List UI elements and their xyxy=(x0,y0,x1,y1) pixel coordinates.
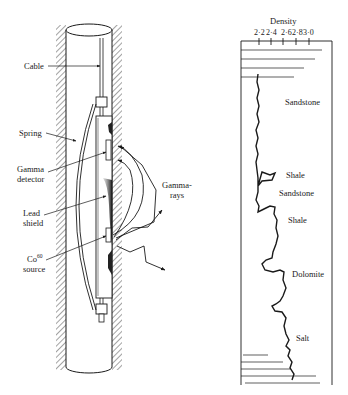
tick-label-2-4: 2·4 xyxy=(266,28,277,37)
left-formation-wall xyxy=(56,25,66,370)
density-title: Density xyxy=(270,16,297,26)
tick-label-2-8: 2·8 xyxy=(292,28,303,37)
label-cable: Cable xyxy=(24,61,44,71)
diagram-canvas: Cable Spring Gamma detector Lead shield … xyxy=(0,0,348,395)
label-gamma-detector-1: Gamma xyxy=(17,164,44,174)
log-frame xyxy=(241,38,332,385)
bottom-bed-lines xyxy=(241,355,320,383)
lith-salt: Salt xyxy=(296,333,310,343)
label-source-2: source xyxy=(23,264,45,274)
top-bed-lines xyxy=(241,50,322,77)
upper-connector xyxy=(96,97,107,107)
label-spring: Spring xyxy=(19,128,42,138)
label-lead-shield-2: shield xyxy=(23,218,44,228)
lith-shale-2: Shale xyxy=(288,215,307,225)
tick-label-3-0: 3·0 xyxy=(303,28,314,37)
lith-sandstone-2: Sandstone xyxy=(279,188,314,198)
label-gamma-rays-1: Gamma- xyxy=(162,180,192,190)
lith-dolomite: Dolomite xyxy=(292,269,324,279)
borehole-bottom-ellipse xyxy=(66,367,112,373)
bow-spring xyxy=(79,104,96,310)
tick-label-2-6: 2·6 xyxy=(281,28,292,37)
tick-label-2-2: 2·2 xyxy=(254,28,265,37)
label-lead-shield-1: Lead xyxy=(23,208,41,218)
borehole-diagram: Cable Spring Gamma detector Lead shield … xyxy=(17,24,192,373)
label-gamma-detector-2: detector xyxy=(17,174,45,184)
label-gamma-rays-2: rays xyxy=(170,190,184,200)
density-curve xyxy=(256,74,294,380)
label-source-1: Co60 xyxy=(27,253,43,264)
density-log: Density 2·2 2·4 2·6 2·8 3·0 xyxy=(241,16,332,385)
gamma-detector xyxy=(106,140,111,160)
borehole-top-ellipse xyxy=(66,24,112,36)
tool-tip xyxy=(99,314,104,322)
lower-connector xyxy=(96,304,107,314)
right-formation-wall xyxy=(112,25,122,370)
lith-sandstone-1: Sandstone xyxy=(285,97,320,107)
lith-shale-1: Shale xyxy=(286,170,305,180)
co60-source xyxy=(106,228,111,242)
